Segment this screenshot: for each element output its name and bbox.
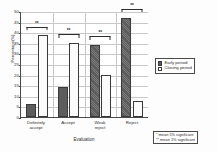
legend-swatch-icon bbox=[158, 67, 162, 71]
y-tick-label: 5 bbox=[8, 105, 19, 109]
significance-bracket: ** bbox=[58, 34, 79, 37]
legend-label: Closing period bbox=[164, 66, 191, 71]
y-tick-label: 0 bbox=[8, 116, 19, 120]
bar-early bbox=[121, 18, 131, 117]
bar-closing bbox=[101, 75, 111, 117]
bars bbox=[85, 12, 117, 117]
y-tick-label: 10 bbox=[8, 95, 19, 99]
legend-swatch-icon bbox=[158, 61, 162, 65]
bar-early bbox=[26, 104, 36, 117]
y-tick-label: 45 bbox=[8, 20, 19, 24]
bar-groups: ******** bbox=[21, 12, 148, 117]
legend-item[interactable]: Closing period bbox=[158, 66, 192, 71]
footnote-line: ** mean 1% significant bbox=[156, 138, 195, 142]
y-tick-label: 50 bbox=[8, 10, 19, 14]
bars bbox=[116, 12, 148, 117]
plot-area: ******** bbox=[20, 12, 148, 118]
x-tick-label-line: Accept bbox=[52, 120, 84, 125]
bar-group: ** bbox=[116, 12, 148, 117]
bar-early bbox=[58, 87, 68, 117]
bar-chart-figure: Percentage(%) 05101520253035404550 *****… bbox=[0, 0, 217, 152]
y-tick-label: 25 bbox=[8, 63, 19, 67]
bar-closing bbox=[38, 35, 48, 117]
legend: Early periodClosing period bbox=[155, 58, 195, 74]
significance-bracket: ** bbox=[122, 9, 143, 12]
significance-bracket-line bbox=[26, 27, 47, 30]
significance-footnote: * mean 5% significant** mean 1% signific… bbox=[153, 131, 198, 144]
significance-bracket: ** bbox=[26, 27, 47, 30]
y-tick-label: 15 bbox=[8, 84, 19, 88]
x-tick-label-line: reject bbox=[84, 125, 116, 130]
y-tick-label: 30 bbox=[8, 52, 19, 56]
x-tick-label-line: accept bbox=[20, 125, 52, 130]
bar-group: ** bbox=[85, 12, 117, 117]
x-tick-label-line: Reject bbox=[116, 120, 148, 125]
x-tick-label: Definitelyaccept bbox=[20, 120, 52, 130]
significance-bracket-line bbox=[90, 36, 111, 39]
y-tick-label: 40 bbox=[8, 31, 19, 35]
x-axis-title: Evaluation bbox=[20, 137, 148, 142]
significance-bracket-line bbox=[122, 9, 143, 12]
bar-early bbox=[90, 45, 100, 117]
x-tick-label: Accept bbox=[52, 120, 84, 130]
significance-bracket: ** bbox=[90, 36, 111, 39]
bar-closing bbox=[69, 43, 79, 117]
x-axis-tick-labels: DefinitelyacceptAcceptWeakrejectReject bbox=[20, 120, 148, 130]
significance-bracket-line bbox=[58, 34, 79, 37]
x-tick-label: Reject bbox=[116, 120, 148, 130]
y-tick-mark bbox=[19, 118, 22, 119]
bar-group: ** bbox=[53, 12, 85, 117]
y-tick-label: 35 bbox=[8, 42, 19, 46]
y-tick-label: 20 bbox=[8, 73, 19, 77]
x-tick-label: Weakreject bbox=[84, 120, 116, 130]
y-axis-tick-labels: 05101520253035404550 bbox=[8, 12, 19, 118]
bar-closing bbox=[133, 101, 143, 117]
bar-group: ** bbox=[21, 12, 53, 117]
